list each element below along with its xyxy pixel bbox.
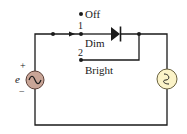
wire-right <box>120 34 167 69</box>
junction-dot <box>137 32 141 36</box>
switch-contact-bright <box>79 58 83 62</box>
diode-icon <box>111 27 121 42</box>
switch-contact-off <box>79 12 83 16</box>
lamp-icon <box>157 69 177 89</box>
source-minus-label: − <box>19 86 25 97</box>
switch-dim-label: Dim <box>85 37 105 49</box>
switch-bright-label: Bright <box>85 64 113 76</box>
source-e-label: e <box>15 73 20 85</box>
source-plus-label: + <box>20 60 26 71</box>
junction-dot <box>51 32 55 36</box>
ac-source-icon <box>26 71 44 89</box>
wire-bottom <box>35 89 167 125</box>
circuit-diagram: Off 1 Dim 2 Bright + e − <box>0 0 187 134</box>
switch-pos-1-number: 1 <box>78 20 83 31</box>
switch-arrow-icon <box>69 32 75 37</box>
wire-left-top <box>35 34 81 71</box>
switch-contact-dim <box>79 32 83 36</box>
switch-off-label: Off <box>85 8 100 20</box>
switch-pos-2-number: 2 <box>78 47 83 58</box>
